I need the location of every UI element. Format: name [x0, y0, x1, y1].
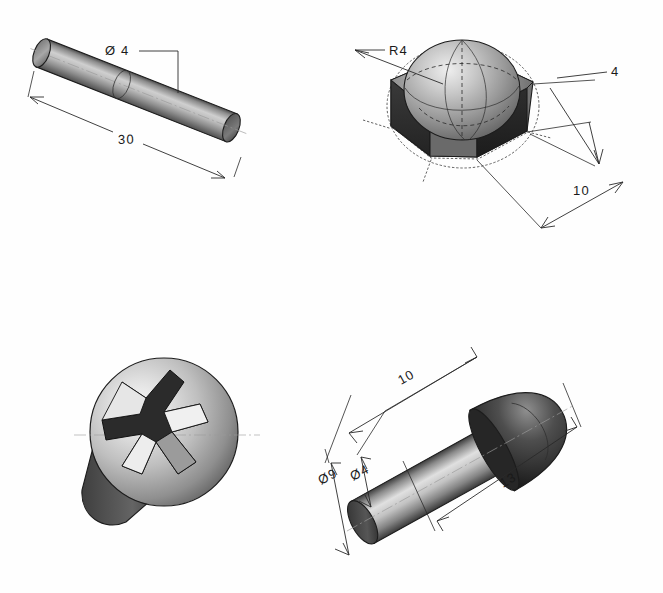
rivet-head-diameter-dimension [325, 449, 349, 555]
pin-solid [25, 35, 252, 148]
nut-height-label: 4 [611, 64, 619, 79]
view-round-head-rivet: 10 13 Ø9 [325, 335, 663, 593]
nut-height-dimension [527, 72, 607, 164]
rivet-shank-length-label: 10 [395, 366, 417, 387]
rivet-shank-diameter-label: Ø4 [347, 461, 371, 484]
pin-diameter-label: Ø 4 [105, 43, 130, 58]
nut-radius-label: R4 [389, 43, 408, 58]
nut-solid [363, 40, 551, 182]
pin-length-label: 30 [118, 132, 135, 147]
screw-solid [74, 358, 260, 525]
drawing-sheet: Ø 4 30 [0, 0, 663, 593]
view-cylindrical-pin: Ø 4 30 [0, 0, 340, 200]
view-phillips-screw-head [60, 340, 320, 590]
nut-across-flats-label: 10 [573, 183, 590, 198]
view-hex-dome-nut: R4 4 10 [345, 10, 663, 250]
